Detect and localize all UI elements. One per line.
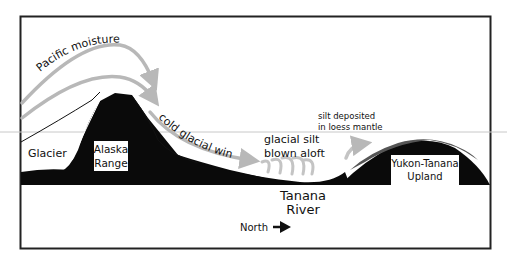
label-glacier: Glacier: [28, 147, 67, 160]
label-glacial-silt-line1: glacial silt: [264, 133, 320, 146]
label-yukon-tanana-line1: Yukon-Tanana: [390, 158, 458, 169]
label-alaska-range-line1: Alaska: [94, 143, 128, 155]
silt-deposit-arrow: [346, 144, 362, 158]
label-pacific-moisture: Pacific moisture: [34, 33, 120, 75]
label-alaska-range-line2: Range: [94, 157, 127, 169]
label-tanana-river-line1: Tanana: [279, 188, 326, 203]
label-yukon-tanana-line2: Upland: [407, 171, 442, 182]
label-silt-deposited-line2: in loess mantle: [318, 122, 383, 132]
silt-swirl-icons: [262, 158, 313, 174]
loess-formation-diagram: Pacific moisture cold glacial winds Glac…: [0, 0, 507, 261]
label-silt-deposited-line1: silt deposited: [318, 111, 375, 121]
label-glacial-silt-line2: blown aloft: [264, 147, 325, 160]
label-tanana-river-line2: River: [286, 202, 320, 217]
north-arrow-icon: [273, 221, 291, 233]
label-north: North: [240, 222, 268, 233]
